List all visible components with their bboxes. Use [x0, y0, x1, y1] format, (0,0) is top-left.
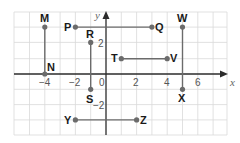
point-p [73, 25, 78, 30]
label-m: M [40, 12, 49, 24]
label-n: N [47, 61, 55, 73]
x-tick-label: 6 [195, 77, 201, 88]
label-z: Z [140, 114, 147, 126]
point-z [134, 117, 139, 122]
x-tick-label: 2 [133, 77, 139, 88]
label-x: X [178, 92, 186, 104]
x-axis-label: x [229, 76, 235, 88]
y-tick-label: 2 [98, 38, 104, 49]
point-m [42, 25, 47, 30]
x-tick-label: −4 [39, 77, 51, 88]
x-tick-label: 0 [99, 77, 105, 88]
x-tick-label: 4 [164, 77, 170, 88]
x-tick-label: −2 [69, 77, 81, 88]
label-v: V [170, 52, 178, 64]
y-axis-label: y [94, 9, 100, 21]
point-t [119, 56, 124, 61]
label-q: Q [155, 21, 164, 33]
label-w: W [177, 12, 188, 24]
label-y: Y [64, 114, 72, 126]
y-tick-label: −2 [93, 100, 105, 111]
point-w [180, 25, 185, 30]
point-r [88, 40, 93, 45]
label-r: R [86, 28, 94, 40]
label-t: T [111, 52, 118, 64]
point-y [73, 117, 78, 122]
coordinate-plane: x y −4 −2 0 2 4 6 2 −2 M N P Q R S T V W… [0, 0, 240, 143]
label-s: S [86, 93, 93, 105]
point-q [149, 25, 154, 30]
label-p: P [64, 21, 71, 33]
point-s [88, 87, 93, 92]
